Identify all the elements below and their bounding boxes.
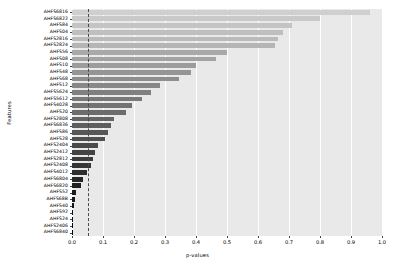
y-tick-mark xyxy=(70,133,72,134)
y-tick-mark xyxy=(70,86,72,87)
bar xyxy=(72,30,283,35)
y-tick-mark xyxy=(70,146,72,147)
y-tick-label: AHFS6820 xyxy=(4,184,68,189)
y-tick-label: AHFS6840 xyxy=(4,230,68,235)
y-tick-label: AHFS28 xyxy=(4,137,68,142)
bar xyxy=(72,183,81,188)
x-tick-label: 0.4 xyxy=(183,239,209,245)
y-tick-mark xyxy=(70,199,72,200)
bar xyxy=(72,70,191,75)
x-tick-label: 0.9 xyxy=(338,239,364,245)
y-tick-label: AHFS2406 xyxy=(4,224,68,229)
bar xyxy=(72,57,216,62)
y-tick-label: AHFS08 xyxy=(4,57,68,62)
y-tick-mark xyxy=(70,159,72,160)
y-tick-mark xyxy=(70,26,72,27)
y-tick-label: AHFS68B xyxy=(4,197,68,202)
y-tick-mark xyxy=(70,39,72,40)
x-tick-label: 0.6 xyxy=(245,239,271,245)
y-tick-label: AHFS2812 xyxy=(4,157,68,162)
x-tick-label: 0.2 xyxy=(121,239,147,245)
y-tick-label: AHFS5612 xyxy=(4,97,68,102)
y-tick-mark xyxy=(70,179,72,180)
bar xyxy=(72,10,370,15)
gridline-vertical xyxy=(289,9,290,236)
plot-area xyxy=(72,9,382,236)
y-tick-mark xyxy=(70,32,72,33)
y-tick-mark xyxy=(70,126,72,127)
gridline-vertical xyxy=(351,9,352,236)
bar xyxy=(72,130,108,135)
y-tick-mark xyxy=(70,52,72,53)
y-tick-label: AHFS5624 xyxy=(4,90,68,95)
y-axis-tick-labels: AHFS6816AHFS6822AHFS84AHFS04AHFS2816AHFS… xyxy=(0,9,68,236)
y-tick-mark xyxy=(70,46,72,47)
y-tick-mark xyxy=(70,59,72,60)
y-tick-label: AHFS2412 xyxy=(4,150,68,155)
bar xyxy=(72,83,160,88)
y-tick-mark xyxy=(70,79,72,80)
y-tick-mark xyxy=(70,193,72,194)
y-tick-mark xyxy=(70,92,72,93)
y-tick-label: AHFS20 xyxy=(4,110,68,115)
bar xyxy=(72,37,278,42)
bar xyxy=(72,50,227,55)
y-tick-label: AHFS84 xyxy=(4,23,68,28)
y-tick-label: AHFS2824 xyxy=(4,43,68,48)
y-tick-mark xyxy=(70,226,72,227)
gridline-vertical xyxy=(382,9,383,236)
y-tick-label: AHFS4012 xyxy=(4,170,68,175)
bar xyxy=(72,197,75,202)
bar xyxy=(72,110,126,115)
x-tick-label: 0.5 xyxy=(214,239,240,245)
bar xyxy=(72,43,275,48)
x-tick-label: 0.3 xyxy=(152,239,178,245)
y-tick-mark xyxy=(70,153,72,154)
y-tick-mark xyxy=(70,12,72,13)
y-tick-mark xyxy=(70,206,72,207)
y-tick-label: AHFS04 xyxy=(4,30,68,35)
y-tick-mark xyxy=(70,106,72,107)
y-tick-mark xyxy=(70,66,72,67)
bar xyxy=(72,103,132,108)
bar xyxy=(72,16,320,21)
x-tick-label: 0.7 xyxy=(276,239,302,245)
y-tick-mark xyxy=(70,139,72,140)
bar xyxy=(72,150,95,155)
y-tick-label: AHFS24 xyxy=(4,217,68,222)
y-tick-label: AHFS2404 xyxy=(4,143,68,148)
y-tick-label: AHFS86 xyxy=(4,130,68,135)
bar xyxy=(72,123,111,128)
x-tick-label: 0.1 xyxy=(90,239,116,245)
y-tick-mark xyxy=(70,72,72,73)
pvalue-bar-chart: Features p-values AHFS6816AHFS6822AHFS84… xyxy=(0,0,395,268)
y-tick-mark xyxy=(70,219,72,220)
y-tick-mark xyxy=(70,19,72,20)
y-tick-mark xyxy=(70,119,72,120)
y-tick-mark xyxy=(70,213,72,214)
x-tick-label: 0.0 xyxy=(59,239,85,245)
bar xyxy=(72,90,151,95)
y-tick-label: AHFS40 xyxy=(4,204,68,209)
bar xyxy=(72,190,76,195)
y-tick-label: AHFS56 xyxy=(4,50,68,55)
bar xyxy=(72,170,87,175)
bar xyxy=(72,63,196,68)
y-tick-label: AHFS10 xyxy=(4,63,68,68)
y-tick-label: AHFS4028 xyxy=(4,103,68,108)
bar xyxy=(72,143,98,148)
y-tick-label: AHFS2816 xyxy=(4,37,68,42)
bar xyxy=(72,97,142,102)
y-tick-mark xyxy=(70,112,72,113)
y-tick-label: AHFS12 xyxy=(4,83,68,88)
y-tick-label: AHFS2408 xyxy=(4,163,68,168)
y-tick-mark xyxy=(70,186,72,187)
y-tick-label: AHFS6804 xyxy=(4,177,68,182)
y-tick-mark xyxy=(70,99,72,100)
y-tick-label: AHFS48 xyxy=(4,70,68,75)
bar xyxy=(72,157,93,162)
y-tick-mark xyxy=(70,233,72,234)
y-tick-mark xyxy=(70,166,72,167)
y-tick-mark xyxy=(70,173,72,174)
y-tick-label: AHFS52 xyxy=(4,190,68,195)
